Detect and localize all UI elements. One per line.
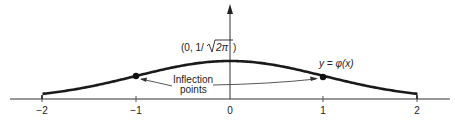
svg-text:(0, 1/: (0, 1/ xyxy=(181,42,204,53)
tick-label-neg1: −1 xyxy=(130,105,142,116)
peak-label-prefix: (0, 1/ xyxy=(181,42,204,53)
tick-label-1: 1 xyxy=(320,105,326,116)
x-tick-labels: −2 −1 0 1 2 xyxy=(36,105,420,116)
tick-label-2: 2 xyxy=(414,105,420,116)
arrowhead-left-icon xyxy=(140,78,147,83)
annotation-line2: points xyxy=(180,84,207,95)
peak-label: (0, 1/ 2π ) xyxy=(181,40,236,53)
inflection-point-right xyxy=(320,74,326,80)
normal-curve-diagram: −2 −1 0 1 2 (0, 1/ 2π ) y = φ(x) Inflect… xyxy=(0,0,455,126)
peak-label-suffix: ) xyxy=(233,42,236,53)
svg-text:2π: 2π xyxy=(215,42,229,53)
tick-label-neg2: −2 xyxy=(36,105,48,116)
y-axis-arrow-icon xyxy=(227,4,233,14)
peak-label-radicand: 2π xyxy=(215,42,229,53)
tick-label-0: 0 xyxy=(227,105,233,116)
svg-text:): ) xyxy=(233,42,236,53)
annotation-arrow-right xyxy=(213,79,316,85)
arrowhead-right-icon xyxy=(310,77,318,82)
inflection-point-left xyxy=(133,73,139,79)
curve-label: y = φ(x) xyxy=(318,58,354,69)
